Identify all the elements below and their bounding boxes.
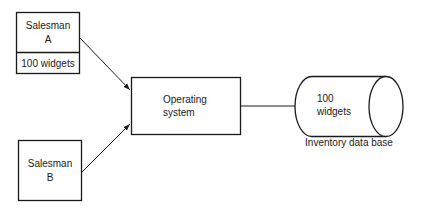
salesman-b-letter: B [47, 172, 54, 183]
database-cylinder-end [369, 77, 403, 137]
salesman-b-box [19, 141, 82, 201]
salesman-b-node: Salesman B [19, 141, 82, 201]
salesman-a-letter: A [45, 34, 52, 45]
arrow-b-to-os [82, 124, 130, 172]
database-value: 100 [317, 93, 334, 104]
operating-system-label-1: Operating [163, 94, 207, 105]
salesman-a-node: Salesman A 100 widgets [17, 13, 80, 74]
operating-system-node: Operating system [132, 78, 241, 135]
operating-system-label-2: system [163, 107, 195, 118]
arrow-a-to-os [80, 38, 130, 90]
operating-system-box [132, 78, 241, 135]
database-caption: Inventory data base [305, 137, 393, 148]
salesman-a-label: Salesman [26, 20, 70, 31]
salesman-b-label: Salesman [28, 158, 72, 169]
inventory-database-node: 100 widgets Inventory data base [295, 77, 403, 149]
database-unit: widgets [316, 106, 351, 117]
diagram-canvas: Salesman A 100 widgets Salesman B Operat… [0, 0, 424, 213]
salesman-a-record: 100 widgets [21, 58, 74, 69]
